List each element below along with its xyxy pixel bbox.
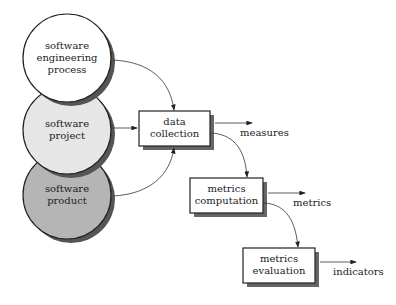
label-line: data xyxy=(139,116,210,128)
output-measures: measures xyxy=(240,127,289,139)
label-software-engineering-process: software engineering process xyxy=(27,40,107,76)
label-line: software xyxy=(27,183,107,195)
arrow-collection-to-computation xyxy=(211,133,247,177)
label-metrics-evaluation: metrics evaluation xyxy=(243,253,315,277)
arrow-process-to-collection xyxy=(113,60,174,110)
label-line: process xyxy=(27,64,107,76)
label-line: metrics xyxy=(243,253,315,265)
label-line: product xyxy=(27,195,107,207)
label-line: collection xyxy=(139,128,210,140)
label-line: engineering xyxy=(27,52,107,64)
label-software-product: software product xyxy=(27,183,107,207)
output-metrics: metrics xyxy=(293,197,331,209)
label-line: software xyxy=(27,40,107,52)
output-indicators: indicators xyxy=(333,266,384,278)
label-line: software xyxy=(27,118,107,130)
label-line: evaluation xyxy=(243,265,315,277)
label-software-project: software project xyxy=(27,118,107,142)
label-line: computation xyxy=(190,195,263,207)
arrow-computation-to-evaluation xyxy=(264,203,298,247)
label-data-collection: data collection xyxy=(139,116,210,140)
label-metrics-computation: metrics computation xyxy=(190,183,263,207)
arrow-product-to-collection xyxy=(113,148,174,196)
label-line: metrics xyxy=(190,183,263,195)
label-line: project xyxy=(27,130,107,142)
